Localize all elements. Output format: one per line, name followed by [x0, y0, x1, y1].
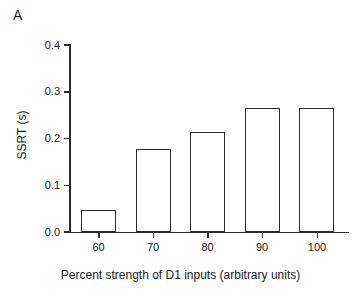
y-axis-line [69, 44, 71, 233]
y-tick-label-1: 0.1 [20, 180, 60, 191]
y-tick-mark-1 [64, 185, 69, 187]
x-tick-mark-60 [98, 233, 100, 238]
panel-label: A [13, 8, 23, 22]
y-tick-label-0: 0.0 [20, 227, 60, 238]
x-tick-label-70: 70 [133, 241, 173, 253]
y-tick-mark-0 [64, 231, 69, 233]
x-tick-mark-100 [317, 233, 319, 238]
x-tick-mark-70 [153, 233, 155, 238]
y-tick-mark-4 [64, 44, 69, 46]
x-tick-label-80: 80 [188, 241, 228, 253]
x-tick-label-60: 60 [79, 241, 119, 253]
figure-panel-a: A 0.0 0.1 0.2 0.3 0.4 60 70 80 90 100 SS… [0, 0, 361, 303]
y-tick-mark-3 [64, 91, 69, 93]
bar-80 [190, 132, 225, 233]
x-tick-label-90: 90 [242, 241, 282, 253]
bar-60 [81, 210, 116, 232]
y-axis-title: SSRT (s) [15, 95, 29, 175]
bar-100 [299, 108, 334, 232]
x-tick-mark-90 [262, 233, 264, 238]
bar-70 [136, 149, 171, 232]
y-tick-label-4: 0.4 [20, 40, 60, 51]
bar-90 [245, 108, 280, 232]
x-tick-mark-80 [207, 233, 209, 238]
x-tick-label-100: 100 [297, 241, 337, 253]
x-axis-title: Percent strength of D1 inputs (arbitrary… [0, 268, 361, 282]
y-tick-mark-2 [64, 138, 69, 140]
